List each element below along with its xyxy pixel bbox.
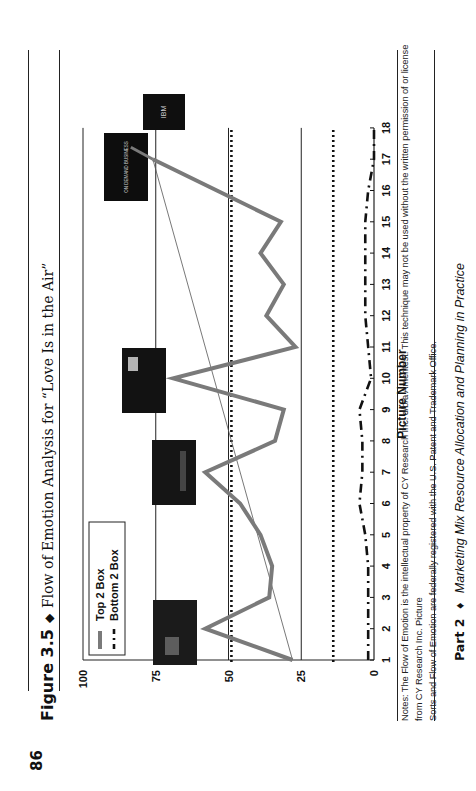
thumbnail-on-demand-business-caption: ON DEMAND BUSINESS (124, 141, 129, 193)
y-tick-label-50: 50 (223, 670, 235, 682)
legend-label-bottom-2-box: Bottom 2 Box (108, 549, 120, 621)
x-tick-label-4: 4 (380, 562, 392, 569)
x-tick-label-7: 7 (380, 469, 392, 475)
y-tick-label-100: 100 (77, 670, 89, 688)
thumbnail-7-highlight (180, 451, 186, 491)
x-tick-label-8: 8 (380, 438, 392, 444)
x-tick-label-2: 2 (380, 626, 392, 632)
x-tick-label-10: 10 (380, 372, 392, 384)
legend-label-top-2-box: Top 2 Box (94, 568, 106, 621)
notes-line-2: Sorts and Flow of Emotion are federally … (426, 41, 440, 721)
y-tick-label-25: 25 (295, 670, 307, 682)
notes-rule (434, 50, 435, 721)
x-tick-label-18: 18 (380, 122, 392, 134)
rotated-page: 86 Figure 3.5◆Flow of Emotion Analysis f… (0, 0, 476, 791)
series-bottom-2-box (359, 128, 374, 660)
x-tick-label-9: 9 (380, 407, 392, 413)
thumbnail-ibm-logo-caption: IBM (160, 106, 167, 119)
footer-diamond-icon: ♦ (453, 603, 467, 609)
thumbnail-1-highlight (165, 637, 179, 655)
y-tick-label-75: 75 (150, 670, 162, 682)
series-top-2-box (153, 159, 296, 660)
thumbnail-picture-7 (152, 440, 196, 505)
x-tick-label-17: 17 (380, 153, 392, 165)
x-tick-label-14: 14 (380, 246, 392, 259)
x-tick-label-11: 11 (380, 341, 392, 353)
footer-part: Part 2 (452, 619, 467, 661)
x-tick-label-15: 15 (380, 216, 392, 228)
footer-subtitle: Marketing Mix Resource Allocation and Pl… (453, 263, 467, 593)
thumbnail-10-highlight (128, 357, 138, 371)
x-tick-label-3: 3 (380, 594, 392, 600)
x-tick-label-6: 6 (380, 500, 392, 506)
x-tick-label-16: 16 (380, 184, 392, 196)
x-tick-label-13: 13 (380, 278, 392, 290)
x-tick-label-1: 1 (380, 657, 392, 663)
thumbnail-picture-1 (153, 600, 197, 665)
y-tick-label-0: 0 (368, 670, 380, 676)
notes-line-1: Notes: The Flow of Emotion is the intell… (398, 41, 426, 721)
x-tick-label-5: 5 (380, 532, 392, 538)
x-tick-label-12: 12 (380, 310, 392, 322)
running-footer: Part 2 ♦ Marketing Mix Resource Allocati… (452, 263, 467, 661)
notes-rule-top (397, 50, 398, 721)
